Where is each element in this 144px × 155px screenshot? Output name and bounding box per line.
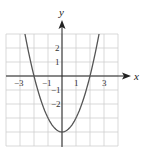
- x-tick-label: 3: [102, 78, 107, 88]
- x-axis-label: x: [133, 70, 139, 82]
- y-tick-label: −2: [51, 99, 61, 109]
- y-axis-label: y: [58, 6, 64, 18]
- x-tick-label: 1: [74, 78, 79, 88]
- axes: x y: [6, 6, 139, 147]
- parabola-plot: x y −3−11321−1−2: [0, 0, 144, 155]
- y-tick-label: 2: [55, 43, 60, 53]
- y-tick-label: −1: [51, 85, 61, 95]
- y-tick-label: 1: [55, 57, 60, 67]
- x-tick-label: −3: [14, 78, 24, 88]
